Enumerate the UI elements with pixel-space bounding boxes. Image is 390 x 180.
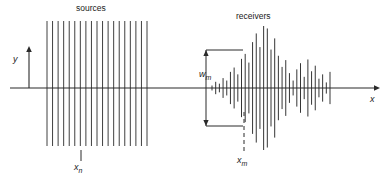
y-axis-label: y	[13, 54, 18, 64]
receiver-width-label: wm	[199, 69, 211, 81]
source-position-subscript: n	[79, 167, 83, 174]
receiver-width-subscript: m	[206, 74, 212, 81]
sources-title: sources	[76, 3, 106, 13]
receiver-position-subscript: m	[242, 160, 248, 167]
diagram-graphics	[0, 0, 390, 180]
wm-arrowhead-up	[203, 50, 208, 56]
figure-canvas: sources receivers x y xn xm wm	[0, 0, 390, 180]
y-axis-arrowhead	[26, 46, 32, 52]
receivers-title: receivers	[236, 11, 270, 21]
axes-layer	[10, 46, 380, 91]
annotations-layer	[81, 50, 244, 161]
x-axis-arrowhead	[374, 85, 380, 91]
x-axis-label: x	[370, 94, 375, 104]
source-position-label: xn	[74, 162, 82, 174]
sources-traces-layer	[47, 21, 147, 146]
receiver-position-label: xm	[237, 155, 247, 167]
wm-arrowhead-down	[203, 120, 208, 126]
